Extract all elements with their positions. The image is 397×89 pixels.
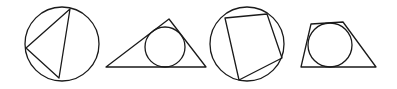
circumscribed-trapezoid (301, 22, 376, 67)
circumscribed-triangle (106, 19, 206, 67)
figure-quadrilateral-inscribed-in-circle (210, 7, 284, 81)
figure-circle-inscribed-in-triangle (106, 19, 206, 67)
diagram-svg (0, 0, 397, 89)
figure-triangle-inscribed-in-circle (25, 7, 99, 81)
incircle-trapezoid (308, 23, 352, 67)
circumscribed-circle-2 (210, 7, 284, 81)
figure-circle-inscribed-in-trapezoid (301, 22, 376, 67)
inscribed-triangle (26, 9, 70, 78)
circumscribed-circle-1 (25, 7, 99, 81)
geometry-diagram (0, 0, 397, 89)
incircle-triangle (145, 27, 185, 67)
